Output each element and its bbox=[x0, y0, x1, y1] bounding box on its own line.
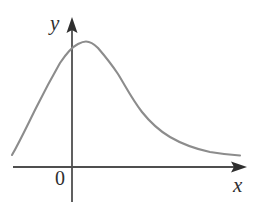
plot-canvas bbox=[0, 0, 257, 210]
distribution-curve bbox=[12, 42, 240, 156]
x-axis-label: x bbox=[233, 175, 242, 196]
y-axis-label: y bbox=[50, 13, 59, 34]
graph-figure: y x 0 bbox=[0, 0, 257, 210]
origin-label: 0 bbox=[55, 168, 65, 188]
